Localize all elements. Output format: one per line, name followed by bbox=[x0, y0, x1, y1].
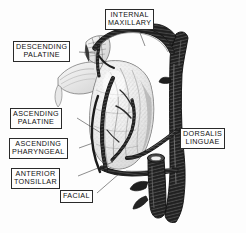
label-anterior-tonsillar-line2: TONSILLAR bbox=[14, 178, 57, 186]
label-facial-line1: FACIAL bbox=[63, 192, 90, 200]
label-ascending-palatine: ASCENDING PALATINE bbox=[10, 108, 62, 129]
label-ascending-pharyngeal: ASCENDING PHARYNGEAL bbox=[9, 138, 68, 159]
label-internal-maxillary-line2: MAXILLARY bbox=[108, 19, 151, 27]
label-descending-palatine: DESCENDING PALATINE bbox=[13, 41, 70, 62]
label-internal-maxillary: INTERNAL MAXILLARY bbox=[105, 9, 154, 30]
label-anterior-tonsillar: ANTERIOR TONSILLAR bbox=[11, 168, 60, 189]
label-ascending-pharyngeal-line2: PHARYNGEAL bbox=[12, 148, 65, 156]
label-descending-palatine-line2: PALATINE bbox=[16, 51, 67, 59]
label-ascending-palatine-line2: PALATINE bbox=[13, 118, 59, 126]
label-dorsalis-linguae-line2: LINGUAE bbox=[183, 138, 222, 146]
anatomical-figure: INTERNAL MAXILLARY DESCENDING PALATINE A… bbox=[0, 0, 246, 233]
label-dorsalis-linguae: DORSALIS LINGUAE bbox=[180, 128, 225, 149]
label-facial: FACIAL bbox=[60, 190, 93, 203]
